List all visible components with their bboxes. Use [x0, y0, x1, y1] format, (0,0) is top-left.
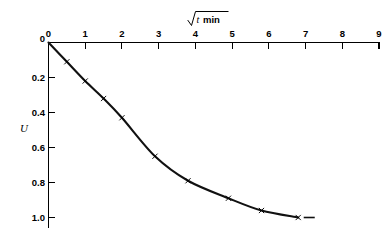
y-tick-label: 1.0 [32, 212, 45, 223]
data-point-marker [83, 78, 88, 83]
x-tick-label: 5 [229, 28, 235, 39]
x-tick-label: 1 [83, 28, 89, 39]
data-point-marker [119, 115, 124, 120]
data-point-markers [64, 59, 301, 220]
x-axis-tick-labels: 0 1 2 3 4 5 6 7 8 9 [46, 28, 382, 39]
y-tick-label: 0.2 [32, 72, 45, 83]
data-point-marker [64, 59, 69, 64]
x-tick-label: 2 [119, 28, 124, 39]
x-tick-label: 7 [303, 28, 308, 39]
y-axis-tick-labels: 0 0.2 0.4 0.6 0.8 1.0 [32, 33, 46, 223]
chart-figure: 0 1 2 3 4 5 6 7 8 9 t min [0, 0, 392, 238]
x-axis-title-unit: min [203, 14, 220, 25]
x-tick-label: 0 [46, 28, 51, 39]
y-tick-label: 0 [40, 33, 45, 44]
y-tick-label: 0.4 [32, 107, 46, 118]
x-tick-label: 4 [193, 28, 199, 39]
y-tick-label: 0.6 [32, 142, 45, 153]
y-axis-title: U [20, 122, 29, 134]
x-axis-title: t min [188, 12, 228, 26]
x-tick-label: 9 [376, 28, 381, 39]
data-point-marker [101, 96, 106, 101]
x-axis-title-variable: t [197, 14, 200, 25]
data-curve [49, 43, 299, 218]
data-point-marker [152, 154, 157, 159]
x-tick-label: 8 [340, 28, 345, 39]
consolidation-chart: 0 1 2 3 4 5 6 7 8 9 t min [0, 0, 392, 238]
x-tick-label: 3 [156, 28, 161, 39]
y-tick-label: 0.8 [32, 177, 45, 188]
x-tick-label: 6 [266, 28, 271, 39]
